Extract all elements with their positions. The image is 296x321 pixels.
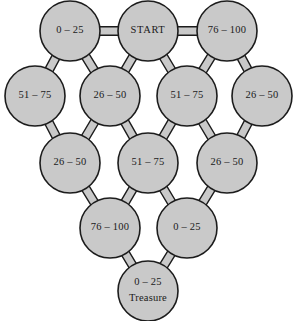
node-range-label: 51 – 75 — [132, 156, 165, 167]
graph-node-r4c2[interactable]: 0 – 25 — [157, 198, 217, 258]
graph-node-r2c2[interactable]: 26 – 50 — [80, 66, 140, 126]
node-range-label: 26 – 50 — [94, 89, 127, 100]
graph-node-r5c1[interactable]: 0 – 25Treasure — [118, 261, 178, 321]
node-range-label: 51 – 75 — [19, 89, 52, 100]
node-range-label: 76 – 100 — [91, 221, 129, 232]
node-range-label: 0 – 25 — [56, 24, 83, 35]
graph-node-r2c4[interactable]: 26 – 50 — [232, 66, 292, 126]
node-range-label: 26 – 50 — [246, 89, 279, 100]
graph-node-r1c1[interactable]: 0 – 25 — [40, 1, 100, 61]
network-graph-canvas: 0 – 25START76 – 10051 – 7526 – 5051 – 75… — [0, 0, 296, 321]
graph-node-r3c2[interactable]: 51 – 75 — [118, 133, 178, 193]
nodes-layer: 0 – 25START76 – 10051 – 7526 – 5051 – 75… — [5, 1, 292, 321]
node-range-label: 0 – 25 — [173, 221, 200, 232]
graph-node-r3c3[interactable]: 26 – 50 — [197, 133, 257, 193]
node-range-label: 76 – 100 — [208, 24, 246, 35]
node-range-label: 0 – 25 — [134, 276, 161, 287]
node-range-label: START — [131, 24, 166, 35]
graph-node-r4c1[interactable]: 76 – 100 — [80, 198, 140, 258]
graph-node-r1c2[interactable]: START — [118, 1, 178, 61]
treasure-map-diagram: 0 – 25START76 – 10051 – 7526 – 5051 – 75… — [0, 0, 296, 321]
graph-node-r2c1[interactable]: 51 – 75 — [5, 66, 65, 126]
node-circle[interactable] — [118, 261, 178, 321]
node-range-label: 51 – 75 — [171, 89, 204, 100]
node-range-label: 26 – 50 — [54, 156, 87, 167]
node-range-label: 26 – 50 — [211, 156, 244, 167]
graph-node-r3c1[interactable]: 26 – 50 — [40, 133, 100, 193]
graph-node-r1c3[interactable]: 76 – 100 — [197, 1, 257, 61]
graph-node-r2c3[interactable]: 51 – 75 — [157, 66, 217, 126]
node-treasure-label: Treasure — [129, 292, 167, 303]
